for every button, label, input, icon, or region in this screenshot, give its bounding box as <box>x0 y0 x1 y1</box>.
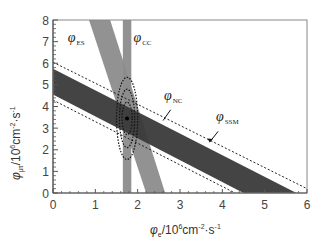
x-axis-label: φe/106cm-2·s-1 <box>150 223 221 238</box>
plot-area <box>53 20 307 193</box>
y-tick-label: 3 <box>42 122 49 136</box>
y-tick-label: 8 <box>42 14 49 28</box>
arrow-nc <box>163 110 171 121</box>
band-phi-nc <box>53 69 296 193</box>
chart-svg: 0123456012345678φESφCCφNCφSSMφe/106cm-2·… <box>0 0 325 244</box>
y-axis-label: φμτ/106cm-2·s-1 <box>9 106 25 180</box>
x-tick-label: 3 <box>177 198 184 212</box>
x-tick-label: 6 <box>304 198 311 212</box>
y-tick-label: 1 <box>42 165 49 179</box>
x-tick-label: 1 <box>92 198 99 212</box>
x-tick-label: 5 <box>261 198 268 212</box>
y-tick-label: 7 <box>42 35 49 49</box>
best-fit-point <box>125 116 129 120</box>
y-tick-label: 6 <box>42 57 49 71</box>
label-phi-ssm: φSSM <box>216 109 240 126</box>
label-phi-cc: φCC <box>133 30 151 47</box>
x-tick-label: 4 <box>219 198 226 212</box>
x-tick-label: 0 <box>50 198 57 212</box>
x-tick-label: 2 <box>134 198 141 212</box>
y-tick-label: 0 <box>42 187 49 201</box>
y-tick-label: 5 <box>42 78 49 92</box>
y-tick-label: 2 <box>42 143 49 157</box>
label-phi-nc: φNC <box>164 88 183 105</box>
ssm-dashed-line <box>53 62 307 189</box>
label-phi-es: φES <box>68 30 85 47</box>
y-tick-label: 4 <box>42 100 49 114</box>
